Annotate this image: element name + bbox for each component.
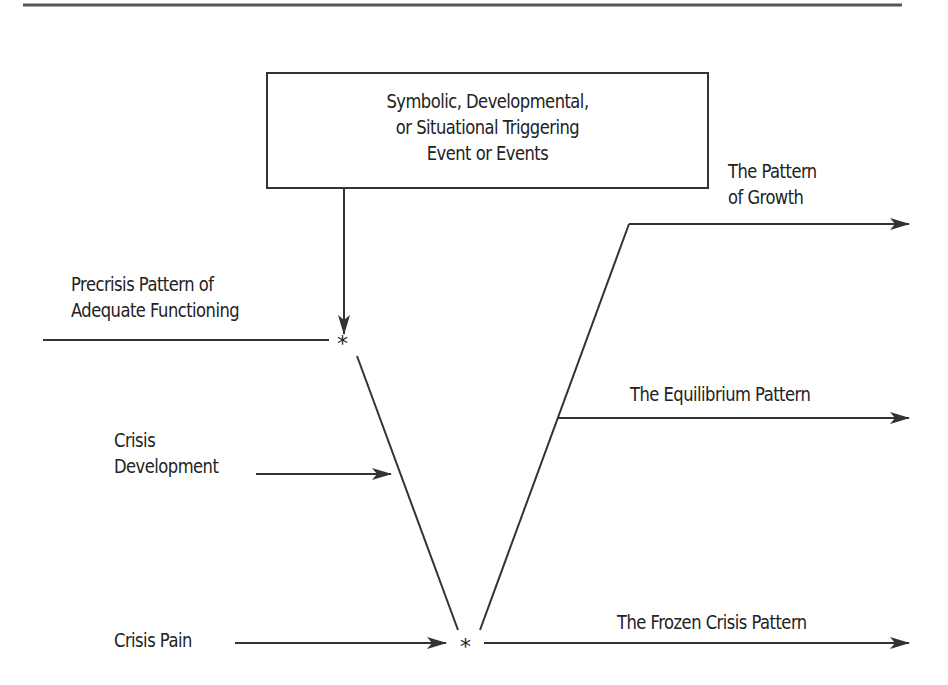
crisis-development-label: Crisis Development xyxy=(114,427,218,479)
crisis-onset-marker: * xyxy=(337,333,348,355)
crisis-diagram: Symbolic, Developmental, or Situational … xyxy=(0,0,948,685)
trigger-line-1: Symbolic, Developmental, xyxy=(299,88,677,114)
trigger-event-text: Symbolic, Developmental, or Situational … xyxy=(268,88,707,166)
equilibrium-label: The Equilibrium Pattern xyxy=(630,381,810,407)
frozen-crisis-label: The Frozen Crisis Pattern xyxy=(617,609,807,635)
recovery-ascent-line xyxy=(480,224,629,630)
precrisis-label-line-1: Precrisis Pattern of xyxy=(71,271,239,297)
growth-label-line-1: The Pattern xyxy=(728,158,817,184)
precrisis-label-line-2: Adequate Functioning xyxy=(71,297,239,323)
growth-label-line-2: of Growth xyxy=(728,184,817,210)
trigger-event-box: Symbolic, Developmental, or Situational … xyxy=(266,72,709,189)
crisis-pain-label: Crisis Pain xyxy=(114,627,192,653)
trigger-line-3: Event or Events xyxy=(299,140,677,166)
crisis-development-line-2: Development xyxy=(114,453,218,479)
crisis-development-line-1: Crisis xyxy=(114,427,218,453)
crisis-bottom-marker: * xyxy=(460,636,471,658)
growth-label: The Pattern of Growth xyxy=(728,158,817,210)
precrisis-label: Precrisis Pattern of Adequate Functionin… xyxy=(71,271,239,323)
trigger-line-2: or Situational Triggering xyxy=(299,114,677,140)
crisis-descent-line xyxy=(357,356,458,630)
